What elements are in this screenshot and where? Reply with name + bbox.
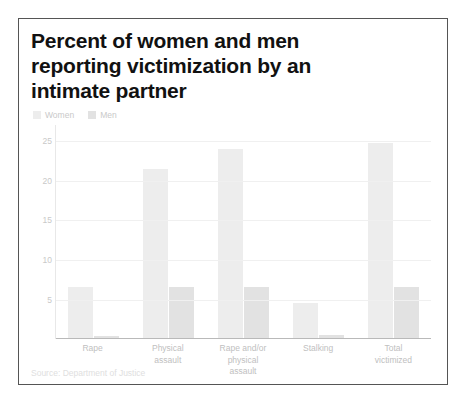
bar-group [56,125,131,338]
chart-card: Percent of women and men reporting victi… [18,18,448,385]
chart-title: Percent of women and men reporting victi… [31,29,361,103]
bar-women[interactable] [368,143,393,339]
x-axis-category-label: Rape [55,339,130,365]
x-axis-category-label: Stalking [281,339,356,365]
gridline-20: 20 [56,181,431,182]
bar-women[interactable] [143,169,168,339]
x-axis-category-label: Rape and/orphysicalassault [205,339,280,365]
x-axis-category-labels: RapePhysicalassaultRape and/orphysicalas… [55,339,431,365]
bar-group [131,125,206,338]
plot-wrapper: 510152025 RapePhysicalassaultRape and/or… [29,125,437,365]
chart-source: Source: Department of Justice [31,368,145,378]
legend-label-men: Men [100,110,117,120]
chart-legend: Women Men [33,109,437,121]
bar-group [206,125,281,338]
bar-men[interactable] [319,335,344,338]
chart-title-line-2: reporting victimization by an [31,54,361,79]
bar-women[interactable] [293,303,318,338]
bar-group [356,125,431,338]
bar-groups [56,125,431,338]
chart-card-inner: Percent of women and men reporting victi… [19,19,447,384]
bar-group [281,125,356,338]
gridline-10: 10 [56,260,431,261]
legend-swatch-men-icon [88,111,96,119]
y-axis-tick-label: 15 [43,215,52,225]
gridline-25: 25 [56,141,431,142]
legend-item-women[interactable]: Women [33,110,74,120]
y-axis-tick-label: 5 [47,295,52,305]
bar-men[interactable] [394,287,419,338]
legend-swatch-women-icon [33,111,41,119]
x-axis-category-label: Physicalassault [130,339,205,365]
bar-women[interactable] [218,149,243,338]
chart-title-line-3: intimate partner [31,79,361,104]
bar-men[interactable] [169,287,194,338]
bar-men[interactable] [94,336,119,338]
x-axis-category-label: Totalvictimized [356,339,431,365]
legend-label-women: Women [45,110,74,120]
screenshot-root: Percent of women and men reporting victi… [0,0,466,405]
bar-men[interactable] [244,287,269,338]
y-axis-tick-label: 10 [43,255,52,265]
chart-title-line-1: Percent of women and men [31,29,361,54]
bar-women[interactable] [68,287,93,338]
gridline-15: 15 [56,220,431,221]
gridline-5: 5 [56,300,431,301]
y-axis-tick-label: 20 [43,176,52,186]
y-axis-tick-label: 25 [43,136,52,146]
legend-item-men[interactable]: Men [88,110,117,120]
plot-area: 510152025 [55,125,431,339]
